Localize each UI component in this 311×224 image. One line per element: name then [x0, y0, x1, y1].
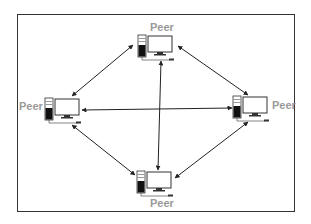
edge-top-right	[178, 46, 248, 95]
edge-right-bottom	[175, 122, 248, 178]
desktop-computer-icon	[45, 98, 81, 124]
network-diagram	[0, 0, 311, 224]
edge-left-right	[82, 108, 232, 110]
edge-left-bottom	[72, 125, 135, 175]
node-label-left: Peer	[19, 100, 43, 112]
node-label-top: Peer	[150, 21, 174, 33]
desktop-computer-icon	[137, 171, 173, 197]
desktop-computer-icon	[233, 96, 269, 122]
node-label-bottom: Peer	[150, 197, 174, 209]
edge-top-bottom	[158, 61, 161, 170]
node-label-right: Peer	[272, 99, 296, 111]
edge-top-left	[72, 45, 133, 96]
connection-lines	[72, 45, 248, 178]
desktop-computer-icon	[138, 35, 174, 61]
